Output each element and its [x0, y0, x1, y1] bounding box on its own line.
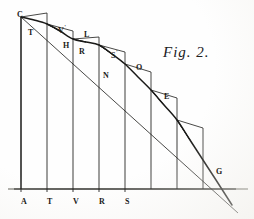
- point-label-l: L: [84, 31, 90, 39]
- figure-drawing: [0, 0, 254, 219]
- label-text: O: [136, 63, 142, 72]
- step-polygon: [21, 13, 203, 160]
- label-text: V: [73, 197, 79, 206]
- step-chords: [21, 13, 203, 160]
- axis-label-s: S: [125, 198, 130, 206]
- point-label-n: N: [103, 72, 109, 80]
- prime-mark: ': [64, 23, 66, 31]
- point-label-t: T: [28, 29, 34, 37]
- label-text: A: [21, 197, 27, 206]
- figure-caption: Fig. 2.: [163, 44, 210, 61]
- axis-label-a: A: [21, 198, 27, 206]
- point-label-s: S': [111, 49, 118, 60]
- label-text: E: [164, 92, 170, 101]
- figure-panel: CTV'HLRS'NOEG ATVRS Fig. 2.: [0, 0, 254, 219]
- point-label-v: V': [58, 24, 66, 35]
- label-text: T: [28, 28, 34, 37]
- label-text: L: [84, 30, 90, 39]
- label-text: T: [47, 197, 53, 206]
- label-text: R: [99, 197, 105, 206]
- point-label-r: R: [79, 48, 85, 56]
- point-label-o: O: [136, 64, 142, 72]
- label-text: R: [79, 47, 85, 56]
- prime-mark: ': [116, 48, 118, 56]
- label-text: N: [103, 71, 109, 80]
- label-text: S: [111, 51, 116, 60]
- point-label-c: C: [17, 11, 23, 19]
- label-text: G: [216, 167, 222, 176]
- axis-label-v: V: [73, 198, 79, 206]
- point-label-g: G: [216, 168, 222, 176]
- label-text: C: [17, 10, 23, 19]
- point-label-h: H: [63, 42, 69, 50]
- ordinate-lines: [21, 17, 203, 189]
- point-label-e: E: [164, 93, 170, 101]
- axis-label-r: R: [99, 198, 105, 206]
- label-text: S: [125, 197, 130, 206]
- axis-label-t: T: [47, 198, 53, 206]
- label-text: H: [63, 41, 69, 50]
